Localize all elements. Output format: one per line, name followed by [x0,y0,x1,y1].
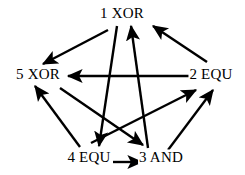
directed-graph-diagram: 1 XOR 5 XOR 2 EQU 4 EQU 3 AND [0,0,245,175]
edge-layer [0,0,245,175]
edge-2-to-1 [153,26,207,62]
node-label-4: 4 EQU [66,150,111,165]
edge-1-to-4 [99,26,117,146]
edge-4-to-5 [35,86,80,147]
node-label-2: 2 EQU [188,67,233,82]
node-label-1: 1 XOR [99,6,145,21]
node-label-5: 5 XOR [15,67,61,82]
node-label-3: 3 AND [138,150,184,165]
edge-3-to-2 [168,90,213,150]
edge-1-to-5 [43,30,108,64]
edge-3-to-1 [131,26,148,148]
